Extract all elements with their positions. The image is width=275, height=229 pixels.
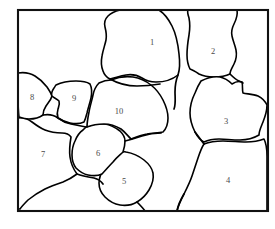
grain-label-6: 6 xyxy=(96,148,100,158)
grain-label-7: 7 xyxy=(41,149,45,159)
grain-region-1 xyxy=(101,10,179,82)
grain-structure-canvas: 1 2 3 4 5 6 7 8 9 10 xyxy=(0,0,275,229)
grain-label-1: 1 xyxy=(150,37,154,47)
grain-label-9: 9 xyxy=(72,93,76,103)
grain-label-8: 8 xyxy=(30,92,34,102)
grain-structure-diagram: 1 2 3 4 5 6 7 8 9 10 xyxy=(0,0,275,229)
grain-region-2 xyxy=(187,10,237,77)
grain-label-10: 10 xyxy=(115,106,124,116)
grain-label-2: 2 xyxy=(211,46,215,56)
grain-label-5: 5 xyxy=(122,176,126,186)
grain-label-3: 3 xyxy=(224,116,228,126)
